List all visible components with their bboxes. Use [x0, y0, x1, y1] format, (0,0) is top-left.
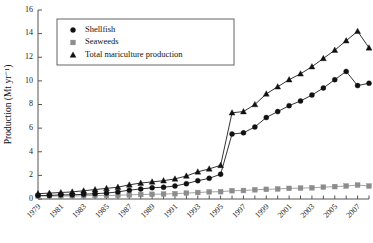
y-tick-label: 4	[29, 147, 33, 156]
x-tick-label: 1989	[139, 202, 157, 220]
data-point-square	[344, 184, 349, 189]
data-point-square	[127, 192, 132, 197]
series-line-circle	[38, 71, 369, 195]
data-point-circle	[321, 85, 326, 90]
x-tick-label: 1981	[48, 202, 66, 220]
data-point-triangle	[332, 47, 338, 52]
data-point-circle	[287, 103, 292, 108]
data-point-square	[218, 189, 223, 194]
data-point-square	[241, 188, 246, 193]
data-point-triangle	[218, 162, 224, 167]
x-tick-label: 1987	[116, 202, 134, 220]
data-point-square	[287, 186, 292, 191]
x-tick-label: 1991	[162, 202, 180, 220]
x-tick-label: 2003	[299, 202, 317, 220]
y-tick-label: 2	[29, 170, 33, 179]
data-point-circle	[127, 188, 132, 193]
data-point-circle	[195, 178, 200, 183]
data-point-circle	[150, 185, 155, 190]
data-point-circle	[104, 191, 109, 196]
x-tick-label: 1985	[93, 202, 111, 220]
data-point-circle	[241, 130, 246, 135]
x-tick-label: 1983	[70, 202, 88, 220]
data-point-triangle	[241, 108, 247, 113]
x-tick-label: 2001	[276, 202, 294, 220]
data-point-circle	[309, 93, 314, 98]
data-point-circle	[172, 184, 177, 189]
chart-canvas: 0246810121416197919811983198519871989199…	[0, 0, 373, 243]
data-point-square	[321, 185, 326, 190]
data-point-square	[252, 187, 257, 192]
x-tick-label: 1995	[207, 202, 225, 220]
data-point-circle	[138, 186, 143, 191]
data-point-square	[150, 192, 155, 197]
production-line-chart: 0246810121416197919811983198519871989199…	[0, 0, 373, 243]
x-tick-label: 1979	[25, 202, 43, 220]
data-point-circle	[184, 181, 189, 186]
data-point-square	[138, 192, 143, 197]
y-tick-label: 12	[25, 52, 33, 61]
x-tick-label: 1997	[230, 202, 248, 220]
y-tick-label: 8	[29, 99, 33, 108]
data-point-circle	[298, 98, 303, 103]
data-point-circle	[264, 115, 269, 120]
data-point-triangle	[320, 55, 326, 60]
data-point-square	[298, 186, 303, 191]
legend-label-triangle: Total mariculture production	[85, 49, 183, 59]
data-point-circle	[367, 81, 372, 86]
y-tick-label: 14	[25, 28, 33, 37]
data-point-triangle	[309, 64, 315, 69]
data-point-circle	[207, 176, 212, 181]
y-tick-label: 6	[29, 123, 33, 132]
data-point-triangle	[275, 84, 281, 89]
data-point-circle	[355, 83, 360, 88]
data-point-square	[355, 183, 360, 188]
legend-label-square: Seaweeds	[85, 36, 119, 46]
data-point-triangle	[343, 38, 349, 43]
y-axis-title: Production (Mt yr⁻¹)	[3, 65, 14, 145]
x-tick-label: 1993	[185, 202, 203, 220]
data-point-circle	[161, 185, 166, 190]
data-point-circle	[252, 124, 257, 129]
data-point-square	[230, 188, 235, 193]
legend-marker-square	[71, 40, 76, 45]
data-point-circle	[275, 109, 280, 114]
data-point-circle	[344, 69, 349, 74]
x-tick-label: 2007	[344, 202, 362, 220]
y-tick-label: 10	[25, 76, 33, 85]
data-point-square	[332, 184, 337, 189]
data-point-circle	[115, 189, 120, 194]
data-point-circle	[218, 172, 223, 177]
data-point-square	[161, 192, 166, 197]
data-point-circle	[230, 132, 235, 137]
legend-marker-circle	[71, 28, 76, 33]
data-point-circle	[332, 77, 337, 82]
data-point-square	[310, 185, 315, 190]
data-point-square	[275, 187, 280, 192]
data-point-square	[184, 191, 189, 196]
data-point-square	[173, 191, 178, 196]
y-tick-label: 16	[25, 5, 33, 14]
data-point-square	[207, 190, 212, 195]
data-point-triangle	[263, 91, 269, 96]
data-point-triangle	[298, 71, 304, 76]
data-point-triangle	[286, 77, 292, 82]
data-point-square	[367, 184, 372, 189]
data-point-square	[195, 190, 200, 195]
legend-label-circle: Shellfish	[85, 24, 116, 34]
data-point-triangle	[355, 28, 361, 33]
x-tick-label: 2005	[321, 202, 339, 220]
x-tick-label: 1999	[253, 202, 271, 220]
y-tick-label: 0	[29, 194, 33, 203]
data-point-square	[264, 187, 269, 192]
